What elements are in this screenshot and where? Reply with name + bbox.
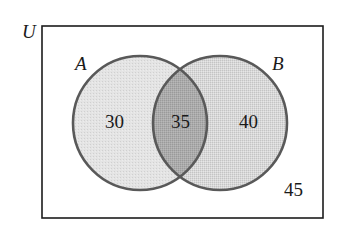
set-a-only-count: 30	[105, 111, 124, 132]
set-b-label: B	[272, 53, 284, 74]
set-a-label: A	[73, 53, 87, 74]
universe-label: U	[22, 21, 37, 42]
venn-diagram: U A B 30 35 40 45	[0, 0, 338, 228]
outside-count: 45	[284, 179, 303, 200]
set-b-only-count: 40	[239, 111, 258, 132]
intersection-count: 35	[171, 111, 190, 132]
